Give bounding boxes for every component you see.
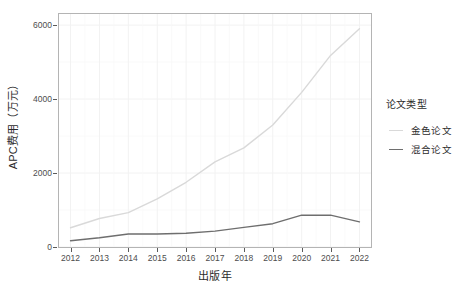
x-axis-tick-mark <box>71 248 72 252</box>
legend-item[interactable]: 混合论文 <box>388 139 464 158</box>
plot-svg <box>59 14 371 247</box>
x-axis-tick-mark <box>302 248 303 252</box>
y-axis-tick-label: 4000 <box>18 94 52 104</box>
x-axis-tick-label: 2013 <box>90 253 109 263</box>
x-axis-tick-label: 2022 <box>350 253 369 263</box>
y-axis-tick-label: 6000 <box>18 20 52 30</box>
y-axis-tick-label: 2000 <box>18 168 52 178</box>
plot-panel <box>58 13 372 248</box>
x-axis-tick-mark <box>215 248 216 252</box>
x-axis-tick-mark <box>128 248 129 252</box>
y-axis-tick-labels: 0200040006000 <box>14 0 52 288</box>
x-axis-tick-label: 2019 <box>263 253 282 263</box>
x-axis-tick-mark <box>157 248 158 252</box>
x-axis-title: 出版年 <box>58 267 372 283</box>
x-axis-tick-label: 2014 <box>119 253 138 263</box>
chart-root: APC费用（万元） 0200040006000 2012201320142015… <box>0 0 466 288</box>
x-axis-tick-mark <box>99 248 100 252</box>
x-axis-tick-label: 2020 <box>292 253 311 263</box>
x-axis-tick-label: 2015 <box>148 253 167 263</box>
legend-item-label: 金色论文 <box>411 123 452 137</box>
x-axis-tick-mark <box>331 248 332 252</box>
legend-line-swatch-icon <box>388 143 404 155</box>
legend-item[interactable]: 金色论文 <box>388 120 464 139</box>
y-axis-tick-mark <box>53 99 57 100</box>
x-axis-tick-mark <box>244 248 245 252</box>
x-axis-tick-label: 2016 <box>177 253 196 263</box>
x-axis-tick-label: 2018 <box>234 253 253 263</box>
x-axis-tick-mark <box>273 248 274 252</box>
x-axis-tick-label: 2012 <box>61 253 80 263</box>
y-axis-tick-mark <box>53 173 57 174</box>
legend-item-label: 混合论文 <box>411 142 452 156</box>
legend: 论文类型 金色论文混合论文 <box>386 96 464 158</box>
x-axis-tick-labels: 2012201320142015201620172018201920202021… <box>58 253 372 267</box>
y-axis-tick-mark <box>53 247 57 248</box>
y-axis-tick-label: 0 <box>18 242 52 252</box>
legend-line-swatch-icon <box>388 124 404 136</box>
x-axis-tick-mark <box>186 248 187 252</box>
x-axis-tick-label: 2017 <box>206 253 225 263</box>
x-axis-tick-mark <box>359 248 360 252</box>
x-axis-tick-label: 2021 <box>321 253 340 263</box>
legend-items: 金色论文混合论文 <box>386 120 464 158</box>
legend-title: 论文类型 <box>386 96 464 111</box>
y-axis-tick-mark <box>53 25 57 26</box>
